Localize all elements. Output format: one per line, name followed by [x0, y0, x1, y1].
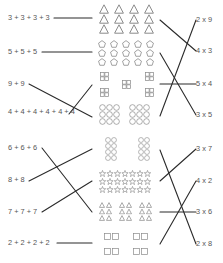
line-6add3-to-triangles: [42, 148, 92, 212]
match-lines: [29, 18, 196, 244]
circle-groups-2x9: [100, 105, 150, 125]
line-circles-to-2x8: [160, 150, 196, 244]
line-circles-to-2x9: [160, 20, 196, 116]
line-4add6-to-squares: [69, 85, 92, 114]
triangle-groups-3x6: [99, 203, 151, 221]
line-7add3-to-stars: [42, 181, 92, 212]
circle-groups-2x8: [106, 138, 150, 161]
square-groups-5x4: [101, 73, 154, 97]
line-8add2-to-circles: [29, 149, 92, 181]
matching-worksheet: 3 + 3 + 3 + 3 5 + 5 + 5 9 + 9 4 + 4 + 4 …: [0, 0, 223, 263]
star-array-3x7: [99, 170, 150, 192]
shapes-and-lines: [0, 0, 223, 263]
triangle-array-3x4: [100, 5, 154, 33]
pentagon-array-3x5: [99, 41, 154, 66]
line-9add2-to-circles: [29, 84, 92, 117]
square-groups-4x2: [105, 234, 148, 255]
